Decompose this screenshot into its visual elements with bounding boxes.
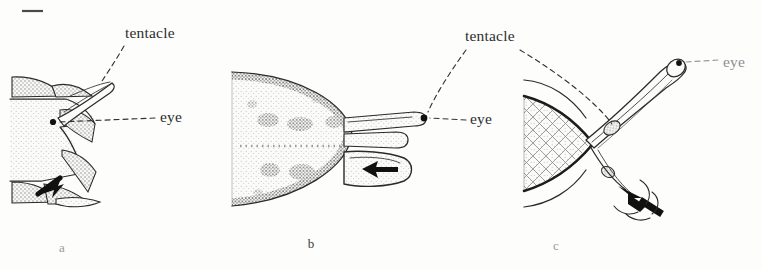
illustration-canvas: a bbox=[0, 0, 762, 269]
label-eye-a: eye bbox=[160, 108, 182, 125]
eye-dot-b bbox=[421, 115, 428, 122]
eye-dot-c bbox=[676, 60, 682, 66]
label-eye-b: eye bbox=[470, 110, 492, 127]
label-tentacle-bc: tentacle bbox=[465, 27, 515, 44]
panel-b-tentacle-middle bbox=[344, 132, 408, 148]
figure-plate: a bbox=[0, 0, 762, 269]
label-tentacle-a: tentacle bbox=[125, 24, 175, 41]
panel-letter-a: a bbox=[59, 240, 65, 255]
eye-dot-a bbox=[50, 119, 56, 125]
panel-letter-b: b bbox=[308, 236, 315, 251]
label-eye-c: eye bbox=[723, 53, 745, 70]
panel-letter-c: c bbox=[553, 238, 559, 253]
